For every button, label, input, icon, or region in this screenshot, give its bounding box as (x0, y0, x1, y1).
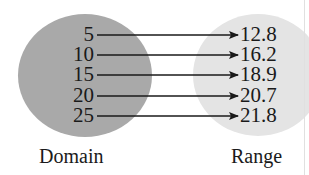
range-value: 12.8 (240, 24, 277, 44)
range-value: 21.8 (240, 105, 277, 125)
domain-value: 15 (54, 64, 94, 84)
domain-value: 20 (54, 85, 94, 105)
domain-value: 5 (54, 24, 94, 44)
domain-value: 10 (54, 44, 94, 64)
range-value: 16.2 (240, 44, 277, 64)
domain-caption: Domain (39, 145, 103, 167)
range-value: 20.7 (240, 85, 277, 105)
domain-value: 25 (54, 105, 94, 125)
range-caption: Range (231, 145, 282, 167)
mapping-diagram: 5 10 15 20 25 12.8 16.2 18.9 20.7 21.8 D… (0, 0, 309, 175)
range-value: 18.9 (240, 64, 277, 84)
